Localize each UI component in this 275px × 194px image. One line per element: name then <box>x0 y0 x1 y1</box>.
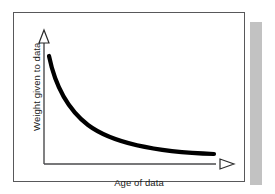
y-axis-label: Weight given to data <box>32 43 42 131</box>
y-axis-arrow-icon <box>39 30 49 43</box>
x-axis-arrow-icon <box>220 159 234 169</box>
figure-drop-shadow <box>250 22 262 185</box>
x-axis-label: Age of data <box>14 178 246 188</box>
plot-canvas <box>14 13 246 183</box>
data-curve-exponential-decay <box>49 56 214 154</box>
figure-root: Weight given to data Age of data <box>0 0 275 194</box>
figure-frame: Weight given to data Age of data <box>13 12 245 182</box>
plot-area: Weight given to data Age of data <box>14 13 246 183</box>
